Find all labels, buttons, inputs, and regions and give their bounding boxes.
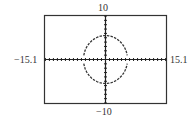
axes	[45, 16, 166, 103]
graph-window	[0, 0, 193, 121]
